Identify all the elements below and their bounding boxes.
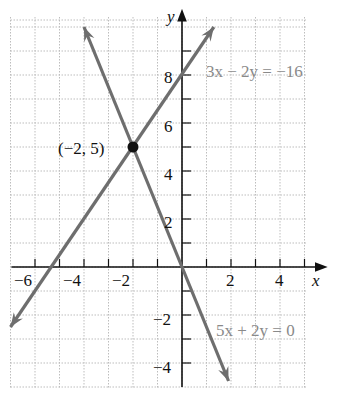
y-axis-label: y (167, 8, 175, 25)
y-tick-label: 2 (164, 214, 173, 231)
x-tick-label: 2 (226, 272, 235, 289)
x-tick-label: −2 (112, 272, 130, 289)
equation-label-line2: 5x + 2y = 0 (216, 322, 295, 339)
equation-label-line1: 3x − 2y = −16 (206, 63, 303, 80)
x-tick-label: −4 (63, 272, 81, 289)
y-tick-label: 4 (164, 166, 173, 183)
x-axis-label: x (312, 272, 320, 289)
arrowhead-icon (201, 27, 213, 42)
intersection-point (128, 142, 139, 153)
y-tick-label: 6 (164, 118, 173, 135)
x-tick-label: −6 (14, 272, 32, 289)
y-tick-label: −4 (153, 359, 171, 376)
intersection-label: (−2, 5) (58, 140, 104, 157)
y-tick-label: 8 (164, 69, 173, 86)
x-tick-label: 4 (275, 272, 284, 289)
y-tick-label: −2 (153, 311, 171, 328)
